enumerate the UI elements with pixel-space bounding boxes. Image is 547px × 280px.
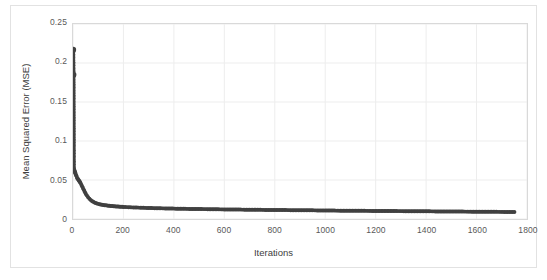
x-tick-label: 200 bbox=[103, 225, 143, 235]
plot-area bbox=[72, 23, 528, 220]
y-tick-label: 0.25 bbox=[27, 17, 67, 27]
x-tick-label: 1600 bbox=[457, 225, 497, 235]
x-tick-label: 1200 bbox=[356, 225, 396, 235]
y-tick-label: 0.15 bbox=[27, 96, 67, 106]
mse-series bbox=[73, 24, 527, 219]
x-tick-label: 400 bbox=[153, 225, 193, 235]
x-tick-label: 1400 bbox=[407, 225, 447, 235]
y-axis-title: Mean Squared Error (MSE) bbox=[20, 42, 31, 202]
x-tick-label: 1800 bbox=[508, 225, 547, 235]
y-tick-label: 0.05 bbox=[27, 175, 67, 185]
y-tick-label: 0.1 bbox=[27, 135, 67, 145]
x-tick-label: 600 bbox=[204, 225, 244, 235]
y-tick-label: 0 bbox=[27, 214, 67, 224]
y-tick-label: 0.2 bbox=[27, 56, 67, 66]
x-tick-label: 0 bbox=[52, 225, 92, 235]
x-axis-title: Iterations bbox=[11, 247, 536, 258]
x-tick-label: 800 bbox=[255, 225, 295, 235]
chart-container: 00.050.10.150.20.25 02004006008001000120… bbox=[10, 5, 537, 268]
x-tick-label: 1000 bbox=[305, 225, 345, 235]
